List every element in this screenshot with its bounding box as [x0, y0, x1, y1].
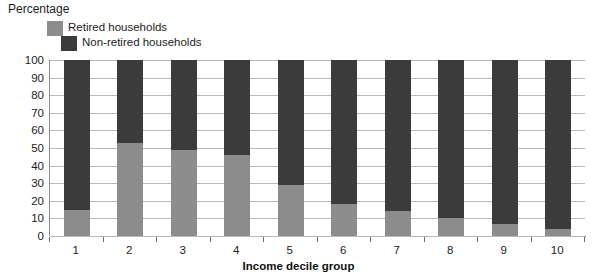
y-tick-label: 50: [0, 142, 44, 154]
stacked-bar-chart: Percentage Retired households Non-retire…: [0, 0, 597, 276]
bar-group-decile-4: [224, 60, 250, 236]
x-tick-label-5: 5: [270, 244, 310, 256]
bar-segment-retired: [331, 204, 357, 236]
chart-legend: Retired households Non-retired household…: [47, 20, 267, 52]
y-tick-label: 30: [0, 177, 44, 189]
x-tick-label-6: 6: [323, 244, 363, 256]
legend-label-retired: Retired households: [68, 20, 167, 35]
bar-segment-non-retired: [492, 60, 518, 224]
bar-segment-non-retired: [545, 60, 571, 229]
x-tick-mark: [531, 237, 532, 242]
y-tick-label: 100: [0, 54, 44, 66]
bar-segment-retired: [492, 224, 518, 236]
x-tick-label-3: 3: [163, 244, 203, 256]
bar-segment-retired: [278, 185, 304, 236]
x-axis-title: Income decile group: [0, 260, 597, 272]
y-tick-label: 0: [0, 230, 44, 242]
y-tick-label: 80: [0, 89, 44, 101]
bar-segment-retired: [117, 143, 143, 236]
y-axis-title: Percentage: [8, 2, 69, 16]
x-tick-label-9: 9: [484, 244, 524, 256]
x-tick-label-7: 7: [377, 244, 417, 256]
bar-segment-non-retired: [64, 60, 90, 210]
bar-group-decile-10: [545, 60, 571, 236]
x-tick-mark: [584, 237, 585, 242]
bar-group-decile-8: [438, 60, 464, 236]
bar-segment-non-retired: [171, 60, 197, 150]
x-tick-label-4: 4: [216, 244, 256, 256]
bar-segment-retired: [545, 229, 571, 236]
x-tick-mark: [49, 237, 50, 242]
x-tick-label-2: 2: [109, 244, 149, 256]
bar-segment-non-retired: [117, 60, 143, 143]
bar-group-decile-9: [492, 60, 518, 236]
y-tick-label: 90: [0, 72, 44, 84]
bar-segment-non-retired: [385, 60, 411, 211]
y-tick-label: 70: [0, 107, 44, 119]
bar-group-decile-2: [117, 60, 143, 236]
legend-label-non-retired: Non-retired households: [82, 35, 202, 50]
x-tick-mark: [156, 237, 157, 242]
x-tick-label-1: 1: [56, 244, 96, 256]
x-tick-mark: [103, 237, 104, 242]
bar-segment-retired: [438, 218, 464, 236]
plot-area: [49, 60, 585, 236]
x-tick-mark: [477, 237, 478, 242]
x-tick-label-10: 10: [537, 244, 577, 256]
bar-segment-non-retired: [438, 60, 464, 218]
y-tick-label: 60: [0, 124, 44, 136]
y-tick-label: 20: [0, 195, 44, 207]
x-tick-mark: [263, 237, 264, 242]
bar-group-decile-3: [171, 60, 197, 236]
x-tick-mark: [424, 237, 425, 242]
bar-segment-non-retired: [331, 60, 357, 204]
x-tick-label-8: 8: [430, 244, 470, 256]
retired-swatch-icon: [47, 21, 63, 36]
bar-group-decile-5: [278, 60, 304, 236]
x-tick-mark: [317, 237, 318, 242]
bar-group-decile-6: [331, 60, 357, 236]
bar-segment-non-retired: [278, 60, 304, 185]
bar-segment-non-retired: [224, 60, 250, 155]
bar-segment-retired: [224, 155, 250, 236]
bar-segment-retired: [64, 210, 90, 236]
y-tick-label: 40: [0, 160, 44, 172]
x-tick-mark: [210, 237, 211, 242]
bar-segment-retired: [171, 150, 197, 236]
non-retired-swatch-icon: [61, 36, 77, 51]
bar-segment-retired: [385, 211, 411, 236]
bar-group-decile-7: [385, 60, 411, 236]
bar-group-decile-1: [64, 60, 90, 236]
y-tick-label: 10: [0, 212, 44, 224]
x-tick-mark: [370, 237, 371, 242]
y-gridline: [50, 236, 585, 237]
